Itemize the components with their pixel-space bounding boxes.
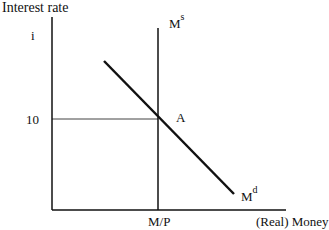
- equilibrium-point-label: A: [176, 111, 185, 124]
- y-tick-label: 10: [26, 113, 39, 126]
- money-supply-superscript: s: [181, 11, 185, 22]
- x-tick-label: M/P: [148, 215, 170, 228]
- money-demand-label: Md: [241, 188, 258, 203]
- money-demand-base: M: [241, 189, 253, 204]
- money-demand-curve: [104, 61, 234, 194]
- y-axis-symbol: i: [31, 29, 35, 42]
- x-axis-label: (Real) Money: [256, 215, 329, 228]
- y-axis-label: Interest rate: [2, 1, 68, 15]
- money-supply-label: Ms: [169, 15, 184, 30]
- money-demand-superscript: d: [253, 184, 258, 195]
- money-supply-base: M: [169, 16, 181, 31]
